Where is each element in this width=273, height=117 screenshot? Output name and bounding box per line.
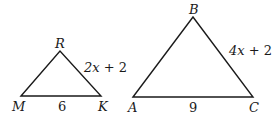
side-label-bc-var: 4x [229, 43, 245, 58]
similar-triangles-diagram: R M K 6 2x + 2 B A C 9 4x + 2 [0, 0, 273, 117]
vertex-label-a: A [128, 101, 137, 114]
vertex-label-k: K [98, 100, 108, 113]
vertex-label-c: C [249, 101, 259, 114]
side-label-rk-var: 2x [84, 60, 100, 75]
vertex-label-m: M [12, 100, 25, 113]
side-label-ac: 9 [189, 101, 197, 114]
side-label-rk: 2x + 2 [84, 61, 127, 74]
vertex-label-b: B [189, 3, 199, 16]
side-label-rk-const: + 2 [100, 60, 127, 75]
vertex-label-r: R [55, 37, 65, 50]
side-label-mk: 6 [58, 100, 66, 113]
side-label-bc-const: + 2 [245, 43, 272, 58]
side-label-bc: 4x + 2 [229, 44, 272, 57]
